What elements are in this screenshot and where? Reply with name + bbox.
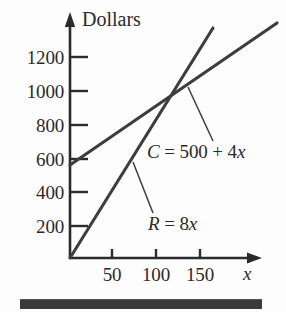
revenue-equation-equals: = [160,213,180,234]
y-tick-label-1000: 1000 [2,82,64,101]
cost-equation-lhs: C [147,141,160,162]
revenue-label-leader-line [133,162,153,213]
revenue-equation-label: R = 8x [148,214,197,233]
y-axis-ticks [70,57,88,226]
cost-equation-rhs: 500 + 4 [180,141,238,162]
y-tick-label-400: 400 [2,183,64,202]
cost-equation-label: C = 500 + 4x [147,142,245,161]
revenue-equation-lhs: R [148,213,160,234]
x-tick-label-150: 150 [177,265,223,284]
y-tick-label-600: 600 [2,150,64,169]
revenue-equation-rhs: 8 [179,213,188,234]
cost-equation-equals: = [160,141,180,162]
cost-equation-variable: x [237,141,245,162]
revenue-equation-variable: x [189,213,197,234]
y-tick-label-1200: 1200 [2,48,64,67]
footer-rule [20,299,262,309]
y-tick-label-800: 800 [2,116,64,135]
x-axis-arrowhead [247,253,262,264]
y-axis-title: Dollars [82,9,141,29]
y-axis-arrowhead [65,12,75,27]
cost-label-leader-line [188,87,213,141]
x-tick-label-50: 50 [89,265,135,284]
x-tick-label-100: 100 [133,265,179,284]
y-tick-label-200: 200 [2,217,64,236]
x-axis-title: x [243,264,251,283]
x-axis-ticks [112,249,200,258]
revenue-cost-break-even-chart: Dollars 1200 1000 800 600 400 200 50 100… [0,0,286,312]
